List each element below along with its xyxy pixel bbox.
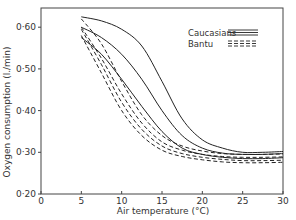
x-tick-label: 20 <box>197 196 209 206</box>
bantu-curve <box>81 19 283 155</box>
x-tick-label: 10 <box>116 196 128 206</box>
plot-frame <box>41 8 283 194</box>
bantu-curve <box>81 36 283 163</box>
x-tick-label: 0 <box>38 196 44 206</box>
y-tick-label: 0·20 <box>16 189 36 199</box>
y-axis-title: Oxygen consumption (l./min) <box>2 46 12 177</box>
caucasians-curve <box>81 38 283 159</box>
x-tick-label: 5 <box>78 196 84 206</box>
y-tick-label: 0·40 <box>16 106 36 116</box>
oxygen-consumption-chart: 0·200·300·400·500·60 051015202530 Caucas… <box>0 0 296 220</box>
x-axis: 051015202530 <box>38 191 289 206</box>
bantu-curve <box>81 29 283 160</box>
x-tick-label: 30 <box>277 196 289 206</box>
legend: CaucasiansBantu <box>188 28 258 49</box>
x-tick-label: 25 <box>237 196 248 206</box>
legend-label: Bantu <box>188 39 213 49</box>
y-tick-label: 0·30 <box>16 147 36 157</box>
y-axis: 0·200·300·400·500·60 <box>16 22 41 199</box>
y-tick-label: 0·50 <box>16 64 36 74</box>
bantu-curve <box>81 27 283 157</box>
y-tick-label: 0·60 <box>16 22 36 32</box>
x-tick-label: 15 <box>156 196 167 206</box>
legend-label: Caucasians <box>188 28 237 38</box>
caucasians-curve <box>81 17 283 153</box>
curves <box>81 17 283 163</box>
x-axis-title: Air temperature (°C) <box>117 206 209 216</box>
